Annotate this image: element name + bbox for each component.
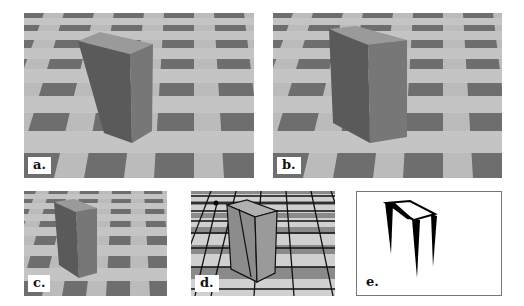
panel-label-d: d. (195, 275, 219, 292)
panel-label-a: a. (28, 157, 51, 174)
panel-label-c: c. (28, 275, 50, 292)
checkerboard-scene-b (273, 13, 502, 178)
panel-d: d. (191, 191, 335, 296)
panel-e: e. (356, 191, 502, 296)
checkerboard-scene-a (24, 13, 254, 178)
panel-c: c. (24, 191, 167, 296)
panel-b: b. (273, 13, 502, 178)
panel-label-b: b. (277, 157, 301, 174)
panel-a: a. (24, 13, 254, 178)
vertex-marker-icon (214, 201, 219, 206)
panel-label-e: e. (361, 274, 384, 291)
